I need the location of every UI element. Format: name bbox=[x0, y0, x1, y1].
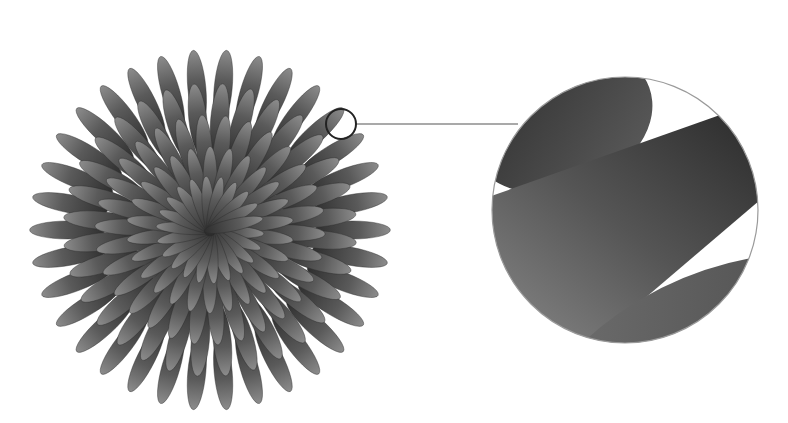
flower-illustration bbox=[0, 0, 788, 423]
flower-petals bbox=[30, 50, 391, 411]
